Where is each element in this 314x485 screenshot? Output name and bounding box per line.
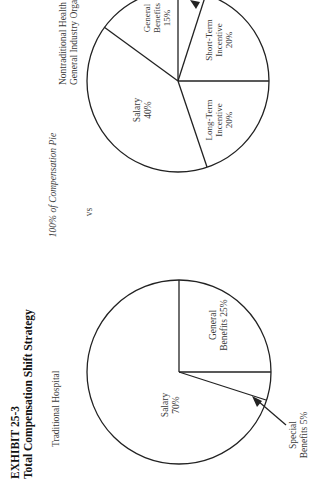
right-short-value: 20% — [224, 31, 234, 48]
right-pie-heading-line1: Nontraditional Health Care or — [58, 0, 68, 85]
vs-label: vs — [84, 207, 94, 216]
right-long-label: Long-Term — [204, 100, 214, 141]
right-long-label-2: Incentive — [214, 103, 224, 136]
right-pie: Salary 40% General Benefits 15% Short-Te… — [87, 0, 269, 172]
right-general-label-2: Benefits — [152, 3, 162, 33]
right-pie-heading-line2: General Industry Organization — [69, 0, 79, 85]
right-short-label-2: Incentive — [214, 23, 224, 56]
left-salary-value: 70% — [171, 396, 181, 414]
exhibit-number: EXHIBIT 25-3 — [9, 406, 21, 479]
exhibit-title: Total Compensation Shift Strategy — [22, 309, 35, 479]
left-special-label: Special — [288, 421, 298, 449]
right-general-label: General — [142, 3, 152, 32]
left-pie-heading: Traditional Hospital — [51, 370, 61, 447]
right-long-value: 20% — [224, 111, 234, 128]
right-general-value: 15% — [162, 9, 172, 26]
right-short-label: Short-Term — [204, 19, 214, 60]
left-general-label: General — [208, 310, 218, 340]
left-general-value: Benefits 25% — [219, 299, 229, 351]
left-pie: Salary 70% General Benefits 25% Special … — [87, 280, 309, 464]
left-salary-label: Salary — [160, 393, 170, 418]
left-arrow-line — [258, 401, 286, 425]
left-special-value: Benefits 5% — [299, 412, 309, 459]
chart-subtitle: 100% of Compensation Pie — [48, 133, 58, 237]
right-salary-label: Salary — [132, 98, 142, 123]
exhibit-figure: EXHIBIT 25-3 Total Compensation Shift St… — [0, 0, 314, 485]
right-salary-value: 40% — [143, 101, 153, 119]
